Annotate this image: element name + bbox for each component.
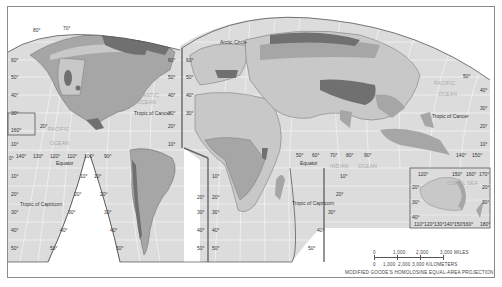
svg-text:60°: 60° — [186, 57, 194, 63]
svg-text:OCEAN: OCEAN — [50, 140, 69, 146]
svg-text:140°: 140° — [444, 221, 454, 227]
svg-text:OCEAN: OCEAN — [137, 99, 156, 105]
svg-text:140°: 140° — [16, 153, 26, 159]
svg-text:160°: 160° — [466, 171, 476, 177]
svg-text:50°: 50° — [212, 245, 220, 251]
svg-text:50°: 50° — [168, 74, 176, 80]
svg-text:50°: 50° — [463, 73, 471, 79]
svg-text:10°: 10° — [11, 173, 19, 179]
svg-text:120°: 120° — [50, 153, 60, 159]
svg-text:30°: 30° — [11, 110, 19, 116]
svg-text:60°: 60° — [11, 57, 19, 63]
svg-text:20°: 20° — [412, 184, 420, 190]
svg-text:10°: 10° — [340, 173, 348, 179]
svg-text:140°: 140° — [456, 152, 466, 158]
svg-text:120°: 120° — [424, 221, 434, 227]
svg-text:100°: 100° — [84, 153, 94, 159]
svg-text:40°: 40° — [480, 87, 488, 93]
svg-text:50°: 50° — [197, 245, 205, 251]
svg-text:80°: 80° — [346, 152, 354, 158]
svg-text:130°: 130° — [434, 221, 444, 227]
svg-text:70°: 70° — [330, 152, 338, 158]
svg-text:OCEAN: OCEAN — [438, 91, 457, 97]
scale-miles-0: 0 — [373, 250, 376, 255]
svg-text:40°: 40° — [317, 227, 325, 233]
svg-text:20°: 20° — [480, 123, 488, 129]
svg-text:CORAL SEA: CORAL SEA — [447, 180, 479, 186]
svg-text:30°: 30° — [212, 209, 220, 215]
svg-text:90°: 90° — [104, 153, 112, 159]
svg-text:20°: 20° — [336, 191, 344, 197]
svg-text:50°: 50° — [50, 245, 58, 251]
svg-text:50°: 50° — [186, 74, 194, 80]
tropic-cancer-west-label: Tropic of Cancer — [134, 110, 171, 116]
tropic-capricorn-east-label: Tropic of Capricorn — [292, 200, 335, 206]
svg-text:160°: 160° — [463, 221, 473, 227]
svg-text:20°: 20° — [482, 184, 490, 190]
svg-text:50°: 50° — [11, 245, 19, 251]
svg-text:30°: 30° — [328, 209, 336, 215]
svg-text:30°: 30° — [197, 209, 205, 215]
scale-miles-1000: 1,000 — [393, 250, 406, 255]
svg-text:10°: 10° — [94, 173, 102, 179]
svg-text:ATLANTIC: ATLANTIC — [133, 92, 159, 98]
svg-text:40°: 40° — [186, 92, 194, 98]
svg-text:20°: 20° — [168, 123, 176, 129]
svg-text:10°: 10° — [80, 173, 88, 179]
svg-text:20°: 20° — [197, 194, 205, 200]
svg-text:110°: 110° — [67, 153, 77, 159]
svg-text:110°: 110° — [414, 221, 424, 227]
svg-text:20°: 20° — [212, 194, 220, 200]
scale-km-1000: 1,000 — [383, 262, 396, 267]
tropic-capricorn-west-label: Tropic of Capricorn — [20, 201, 63, 207]
svg-text:10°: 10° — [11, 141, 19, 147]
svg-text:20°: 20° — [11, 191, 19, 197]
svg-text:70°: 70° — [63, 25, 71, 31]
svg-text:180°: 180° — [480, 221, 490, 227]
svg-text:130°: 130° — [33, 153, 43, 159]
svg-text:40°: 40° — [197, 227, 205, 233]
equator-east-label: Equator — [300, 160, 318, 166]
svg-text:10°: 10° — [168, 141, 176, 147]
equator-west-label: Equator — [56, 160, 74, 166]
svg-text:50°: 50° — [11, 74, 19, 80]
svg-text:150°: 150° — [452, 171, 462, 177]
svg-text:150°: 150° — [472, 152, 482, 158]
svg-text:10°: 10° — [480, 141, 488, 147]
svg-text:30°: 30° — [482, 199, 490, 205]
svg-text:60°: 60° — [168, 57, 176, 63]
scale-km-3000: 3,000 KILOMETERS — [412, 262, 458, 267]
scale-miles-2000: 2,000 — [416, 250, 429, 255]
scale-km-0: 0 — [373, 262, 376, 267]
svg-text:120°: 120° — [418, 171, 428, 177]
svg-text:30°: 30° — [11, 209, 19, 215]
svg-text:INDIAN: INDIAN — [330, 163, 349, 169]
svg-text:90°: 90° — [364, 152, 372, 158]
projection-label: MODIFIED GOODE'S HOMOLOSINE EQUAL-AREA P… — [345, 270, 494, 275]
svg-text:80°: 80° — [33, 27, 41, 33]
svg-text:0°: 0° — [9, 155, 14, 161]
svg-text:30°: 30° — [412, 199, 420, 205]
svg-text:30°: 30° — [68, 209, 76, 215]
svg-text:160°: 160° — [11, 127, 21, 133]
svg-text:40°: 40° — [168, 92, 176, 98]
svg-text:30°: 30° — [186, 110, 194, 116]
svg-text:10°: 10° — [212, 173, 220, 179]
svg-text:20°: 20° — [100, 191, 108, 197]
ocean-area — [0, 0, 502, 287]
svg-text:60°: 60° — [312, 152, 320, 158]
svg-text:PACIFIC: PACIFIC — [48, 126, 70, 132]
scale-miles-3000: 3,000 MILES — [440, 250, 469, 255]
svg-text:40°: 40° — [11, 92, 19, 98]
svg-text:170°: 170° — [479, 171, 489, 177]
arctic-circle-label: Arctic Circle — [220, 39, 247, 45]
svg-text:PACIFIC: PACIFIC — [434, 80, 456, 86]
svg-text:40°: 40° — [60, 227, 68, 233]
svg-text:50°: 50° — [116, 245, 124, 251]
svg-text:40°: 40° — [212, 227, 220, 233]
scale-km-2000: 2,000 — [398, 262, 411, 267]
svg-text:40°: 40° — [412, 214, 420, 220]
svg-text:30°: 30° — [480, 105, 488, 111]
svg-text:OCEAN: OCEAN — [358, 163, 377, 169]
svg-text:20°: 20° — [74, 191, 82, 197]
